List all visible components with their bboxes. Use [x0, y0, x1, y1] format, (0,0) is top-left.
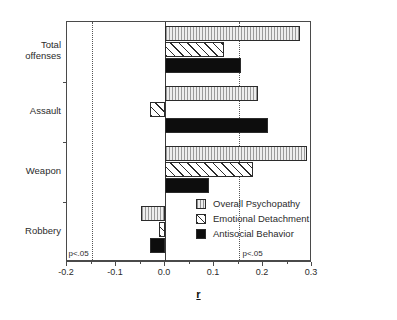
- y-axis-tick: [63, 142, 67, 143]
- x-axis-tick-label: -0.2: [49, 267, 83, 277]
- y-axis-tick: [63, 202, 67, 203]
- legend-label: Overall Psychopathy: [213, 198, 300, 209]
- significance-annotation-right: p<.05: [243, 249, 263, 258]
- x-axis-tick: [66, 262, 67, 266]
- legend-swatch-icon: [196, 229, 206, 239]
- bar: [165, 162, 253, 177]
- x-axis-tick-label: 0.0: [147, 267, 181, 277]
- bar: [150, 238, 165, 253]
- x-axis-minor-tick: [238, 262, 239, 264]
- bar: [141, 206, 166, 221]
- x-axis-tick-label: -0.1: [98, 267, 132, 277]
- significance-annotation-left: p<.05: [69, 249, 89, 258]
- x-axis-tick: [311, 262, 312, 266]
- x-axis-minor-tick: [287, 262, 288, 264]
- x-axis-minor-tick: [91, 262, 92, 264]
- legend-label: Emotional Detachment: [213, 213, 309, 224]
- legend-swatch-icon: [196, 199, 206, 209]
- legend-item: Antisocial Behavior: [196, 226, 309, 241]
- category-label: Robbery: [0, 225, 61, 236]
- bar: [165, 26, 300, 41]
- bar: [165, 42, 224, 57]
- bar: [165, 58, 241, 73]
- x-axis-line: [66, 261, 311, 262]
- category-label: Total offenses: [0, 39, 61, 61]
- category-label: Weapon: [0, 165, 61, 176]
- legend-item: Emotional Detachment: [196, 211, 309, 226]
- x-axis-title: r: [0, 288, 397, 300]
- x-axis-tick-label: 0.1: [196, 267, 230, 277]
- bar: [150, 102, 165, 117]
- y-axis-tick: [63, 82, 67, 83]
- significance-line-negative: [92, 22, 93, 262]
- legend-item: Overall Psychopathy: [196, 196, 309, 211]
- bar: [165, 178, 209, 193]
- x-axis-minor-tick: [140, 262, 141, 264]
- x-axis-minor-tick: [189, 262, 190, 264]
- bar: [165, 146, 307, 161]
- chart-legend: Overall PsychopathyEmotional DetachmentA…: [196, 196, 309, 241]
- correlation-bar-chart: p<.05p<.05 r Overall PsychopathyEmotiona…: [0, 0, 397, 320]
- x-axis-tick: [115, 262, 116, 266]
- x-axis-title-text: r: [196, 288, 200, 300]
- x-axis-tick-label: 0.2: [245, 267, 279, 277]
- legend-swatch-icon: [196, 214, 206, 224]
- x-axis-tick: [262, 262, 263, 266]
- bar: [165, 86, 258, 101]
- x-axis-tick: [164, 262, 165, 266]
- category-label: Assault: [0, 105, 61, 116]
- legend-label: Antisocial Behavior: [213, 228, 294, 239]
- x-axis-tick: [213, 262, 214, 266]
- bar: [159, 222, 165, 237]
- x-axis-tick-label: 0.3: [294, 267, 328, 277]
- bar: [165, 118, 268, 133]
